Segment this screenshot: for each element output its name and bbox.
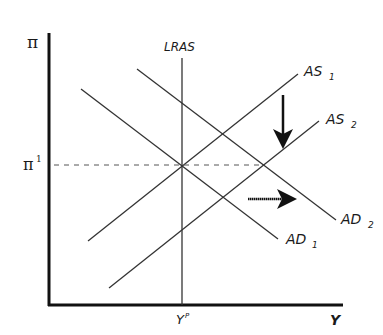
ad1-line [81,89,278,239]
as1-line [88,74,298,241]
as1-sub: 1 [329,72,335,82]
ad-as-diagram: π π 1 LRAS AS 1 AS 2 AD 2 AD 1 Y P Y [0,0,383,335]
yp-tick-sup: P [185,312,190,320]
as1-label: AS [303,63,323,79]
ad2-line [137,69,336,220]
as2-line [109,121,319,288]
ad2-sub: 2 [368,220,374,230]
as2-sub: 2 [351,120,357,130]
pi1-tick-label: π [23,155,34,174]
yp-tick-label: Y [176,312,185,327]
x-axis-label: Y [330,312,342,328]
lras-label: LRAS [164,40,195,54]
ad1-sub: 1 [312,240,318,250]
as2-label: AS [325,111,345,127]
ad2-label: AD [340,211,362,227]
y-axis-label: π [27,32,38,52]
pi1-tick-sup: 1 [36,154,42,164]
ad1-label: AD [285,231,307,247]
